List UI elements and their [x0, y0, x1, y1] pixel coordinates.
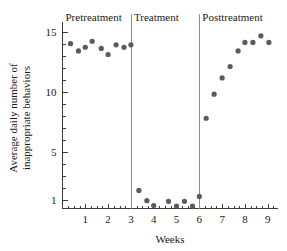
data-point	[68, 41, 73, 46]
data-point	[174, 203, 179, 208]
x-tick-label: 2	[105, 213, 111, 225]
x-tick-label: 9	[265, 213, 271, 225]
x-tick-label: 8	[242, 213, 248, 225]
data-point	[113, 42, 118, 47]
data-point	[190, 203, 195, 208]
x-axis-tick-labels: 123456789	[83, 213, 271, 225]
data-point	[258, 33, 263, 38]
data-point	[106, 52, 111, 57]
chart-figure: 151015 123456789 PretreatmentTreatmentPo…	[0, 0, 287, 251]
data-point	[83, 45, 88, 50]
data-point	[144, 198, 149, 203]
y-tick-label: 15	[46, 26, 58, 38]
x-tick-label: 4	[151, 213, 157, 225]
data-point	[151, 203, 156, 208]
data-point	[99, 46, 104, 51]
y-tick-label: 1	[51, 194, 57, 206]
x-tick-label: 7	[219, 213, 225, 225]
data-point	[228, 64, 233, 69]
data-point	[182, 199, 187, 204]
data-point	[121, 45, 126, 50]
data-point	[242, 40, 247, 45]
x-axis-title: Weeks	[155, 233, 184, 245]
scatter-plot-svg: 151015 123456789 PretreatmentTreatmentPo…	[0, 0, 287, 251]
data-point	[76, 48, 81, 53]
phase-label-posttreatment: Posttreatment	[202, 11, 262, 23]
data-point	[128, 42, 133, 47]
data-point	[204, 116, 209, 121]
phase-label-treatment: Treatment	[134, 11, 179, 23]
data-point	[166, 199, 171, 204]
phase-labels: PretreatmentTreatmentPosttreatment	[66, 11, 263, 23]
data-point	[250, 40, 255, 45]
data-point	[212, 92, 217, 97]
x-tick-label: 1	[83, 213, 89, 225]
data-point	[197, 194, 202, 199]
data-point	[220, 75, 225, 80]
data-point	[90, 39, 95, 44]
data-point	[266, 40, 271, 45]
phase-label-pretreatment: Pretreatment	[66, 11, 122, 23]
x-tick-label: 6	[197, 213, 203, 225]
data-points	[68, 33, 272, 208]
y-axis-title-line2: inappropriate behaviors	[20, 66, 32, 170]
phase-divider-lines	[132, 14, 200, 209]
y-axis-tick-labels: 151015	[46, 26, 58, 206]
y-axis-title-line1: Average daily number of	[7, 63, 19, 173]
x-tick-label: 3	[128, 213, 134, 225]
y-tick-label: 5	[51, 146, 57, 158]
x-tick-label: 5	[174, 213, 180, 225]
y-tick-label: 10	[46, 86, 58, 98]
data-point	[235, 48, 240, 53]
data-point	[136, 188, 141, 193]
